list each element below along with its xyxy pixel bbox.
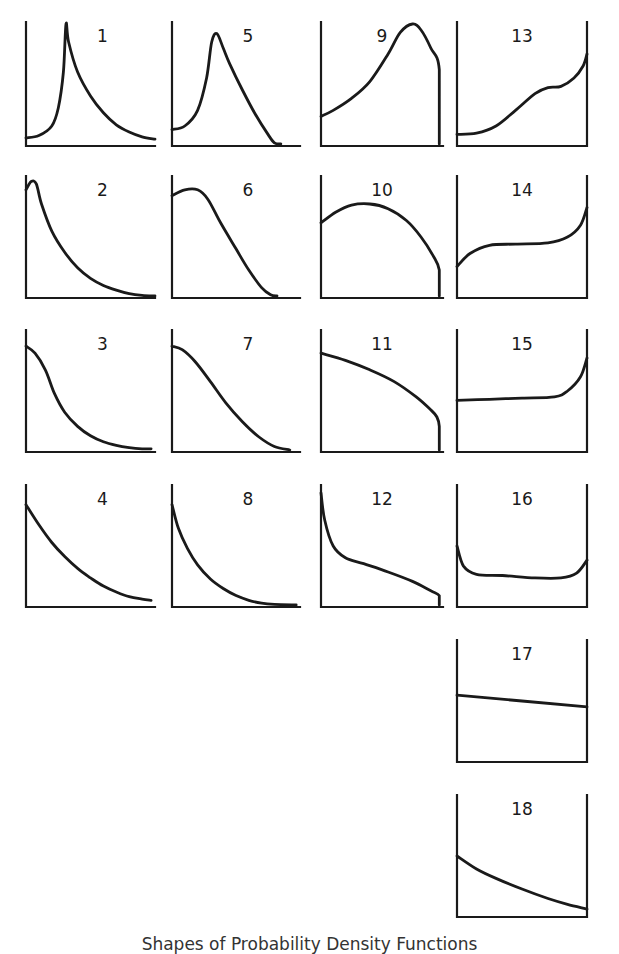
density-curve (457, 546, 587, 578)
panel-number-label: 13 (511, 26, 533, 46)
panel-16: 16 (457, 485, 587, 607)
axes-frame (172, 330, 300, 452)
panel-11: 11 (321, 330, 443, 452)
panel-number-label: 10 (371, 180, 393, 200)
panel-3: 3 (26, 330, 155, 452)
axes-frame (172, 176, 300, 298)
density-curve (172, 346, 290, 450)
panel-1: 1 (26, 22, 155, 146)
axes-frame (172, 22, 300, 146)
panel-number-label: 15 (511, 334, 533, 354)
panel-number-label: 9 (377, 26, 388, 46)
panel-7: 7 (172, 330, 300, 452)
density-curve (457, 358, 587, 400)
panel-number-label: 17 (511, 644, 533, 664)
panel-number-label: 18 (511, 799, 533, 819)
panel-number-label: 16 (511, 489, 533, 509)
panel-number-label: 4 (97, 489, 108, 509)
density-curve (26, 181, 155, 296)
axes-frame (26, 330, 155, 452)
panel-number-label: 1 (97, 26, 108, 46)
panel-2: 2 (26, 176, 155, 298)
density-curve (321, 204, 439, 296)
density-curve (26, 346, 151, 449)
density-curve (457, 54, 587, 134)
panel-6: 6 (172, 176, 300, 298)
panel-10: 10 (321, 176, 443, 298)
panel-number-label: 5 (243, 26, 254, 46)
panel-number-label: 12 (371, 489, 393, 509)
density-curve (457, 208, 587, 267)
panel-15: 15 (457, 330, 587, 452)
panel-number-label: 7 (243, 334, 254, 354)
panel-9: 9 (321, 22, 443, 146)
panel-17: 17 (457, 640, 587, 762)
panel-18: 18 (457, 795, 587, 917)
panel-12: 12 (321, 485, 443, 607)
panel-number-label: 6 (243, 180, 254, 200)
density-curve (321, 353, 439, 450)
axes-frame (172, 485, 300, 607)
axes-frame (26, 485, 155, 607)
density-curve (172, 33, 281, 144)
density-curve (457, 856, 587, 909)
panel-number-label: 14 (511, 180, 533, 200)
density-curve (172, 189, 277, 296)
density-curve (172, 505, 296, 605)
panel-4: 4 (26, 485, 155, 607)
panel-5: 5 (172, 22, 300, 146)
panel-number-label: 3 (97, 334, 108, 354)
density-curve (26, 23, 155, 139)
density-curve (457, 695, 587, 707)
panel-14: 14 (457, 176, 587, 298)
density-curve (26, 505, 151, 601)
panel-number-label: 11 (371, 334, 393, 354)
panel-13: 13 (457, 22, 587, 146)
panel-number-label: 2 (97, 180, 108, 200)
density-curve (321, 493, 439, 605)
axes-frame (26, 22, 155, 146)
panel-number-label: 8 (243, 489, 254, 509)
panel-8: 8 (172, 485, 300, 607)
figure-caption: Shapes of Probability Density Functions (0, 934, 619, 954)
